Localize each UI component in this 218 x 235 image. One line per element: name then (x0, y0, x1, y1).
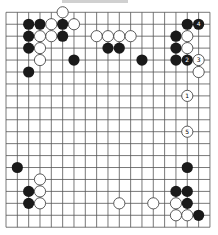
white-stone (182, 210, 193, 221)
black-stone (12, 162, 23, 173)
move-number-label: 3 (197, 56, 201, 63)
black-stone (34, 19, 45, 30)
white-stone (68, 19, 79, 30)
white-stone (34, 31, 45, 42)
black-stone (193, 210, 204, 221)
go-board[interactable]: 42315 (0, 0, 218, 235)
white-stone: 3 (193, 54, 204, 65)
black-stone (23, 19, 34, 30)
move-number-label: 2 (185, 56, 189, 63)
white-stone (46, 19, 57, 30)
white-stone (125, 31, 136, 42)
white-stone (102, 31, 113, 42)
black-stone (23, 66, 34, 77)
black-stone (23, 31, 34, 42)
black-stone (170, 31, 181, 42)
black-stone (57, 31, 68, 42)
black-stone (114, 43, 125, 54)
white-stone (170, 198, 181, 209)
black-stone (68, 54, 79, 65)
black-stone (23, 198, 34, 209)
white-stone (34, 198, 45, 209)
black-stone (102, 43, 113, 54)
white-stone: 5 (182, 126, 193, 137)
black-stone (57, 19, 68, 30)
black-stone (182, 19, 193, 30)
white-stone (148, 198, 159, 209)
black-stone (136, 54, 147, 65)
black-stone (182, 162, 193, 173)
black-stone (170, 43, 181, 54)
black-stone (182, 198, 193, 209)
white-stone (182, 43, 193, 54)
black-stone: 4 (193, 19, 204, 30)
move-number-label: 5 (185, 128, 189, 135)
white-stone (193, 66, 204, 77)
black-stone: 2 (182, 54, 193, 65)
black-stone (170, 186, 181, 197)
black-stone (23, 43, 34, 54)
move-number-label: 4 (197, 20, 201, 27)
white-stone (182, 31, 193, 42)
white-stone (91, 31, 102, 42)
white-stone: 1 (182, 90, 193, 101)
white-stone (114, 198, 125, 209)
white-stone (34, 54, 45, 65)
move-number-label: 1 (185, 92, 189, 99)
white-stone (57, 7, 68, 18)
white-stone (170, 210, 181, 221)
black-stone (170, 54, 181, 65)
white-stone (114, 31, 125, 42)
white-stone (34, 174, 45, 185)
white-stone (34, 43, 45, 54)
white-stone (34, 186, 45, 197)
black-stone (23, 186, 34, 197)
black-stone (182, 186, 193, 197)
white-stone (46, 31, 57, 42)
